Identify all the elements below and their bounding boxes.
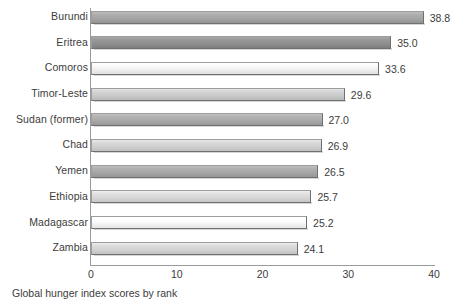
bar-container: 29.6 (91, 88, 463, 103)
bar-rows: Burundi38.8Eritrea35.0Comoros33.6Timor-L… (0, 8, 463, 265)
bar-row: Madagascar25.2 (0, 214, 463, 240)
bar-container: 26.5 (91, 165, 463, 180)
category-label: Timor-Leste (0, 87, 88, 99)
x-axis-line (90, 265, 435, 266)
bar-container: 25.2 (91, 216, 463, 231)
bar[interactable] (91, 113, 323, 126)
category-label: Chad (0, 138, 88, 150)
bar[interactable] (91, 139, 322, 152)
bar-row: Ethiopia25.7 (0, 188, 463, 214)
bar[interactable] (91, 11, 424, 24)
bar-value-label: 26.5 (324, 166, 344, 178)
x-tick-label: 40 (428, 268, 440, 280)
bar-row: Chad26.9 (0, 136, 463, 162)
bar-value-label: 29.6 (351, 89, 371, 101)
bar-container: 24.1 (91, 242, 463, 257)
bar[interactable] (91, 88, 345, 101)
category-label: Zambia (0, 241, 88, 253)
bar-container: 25.7 (91, 190, 463, 205)
x-tick-label: 20 (257, 268, 269, 280)
category-label: Eritrea (0, 36, 88, 48)
category-label: Sudan (former) (0, 113, 88, 125)
x-tick-label: 0 (88, 268, 94, 280)
bar[interactable] (91, 190, 311, 203)
bar[interactable] (91, 62, 379, 75)
bar-value-label: 25.7 (317, 191, 337, 203)
bar-container: 38.8 (91, 11, 463, 26)
x-tick-label: 30 (342, 268, 354, 280)
bar-value-label: 25.2 (313, 217, 333, 229)
category-label: Madagascar (0, 216, 88, 228)
bar-value-label: 26.9 (328, 140, 348, 152)
bar-row: Sudan (former)27.0 (0, 111, 463, 137)
category-label: Burundi (0, 10, 88, 22)
bar-container: 33.6 (91, 62, 463, 77)
bar-row: Yemen26.5 (0, 162, 463, 188)
bar-row: Eritrea35.0 (0, 34, 463, 60)
bar-value-label: 27.0 (329, 114, 349, 126)
bar-value-label: 38.8 (430, 12, 450, 24)
bar-row: Burundi38.8 (0, 8, 463, 34)
x-axis-ticks: 010203040 (0, 268, 463, 284)
bar-container: 35.0 (91, 36, 463, 51)
category-label: Comoros (0, 61, 88, 73)
bar[interactable] (91, 242, 298, 255)
category-label: Yemen (0, 164, 88, 176)
bar-value-label: 35.0 (397, 37, 417, 49)
chart-caption: Global hunger index scores by rank (12, 287, 177, 299)
bar-row: Timor-Leste29.6 (0, 85, 463, 111)
category-label: Ethiopia (0, 190, 88, 202)
bar[interactable] (91, 216, 307, 229)
plot-area: Burundi38.8Eritrea35.0Comoros33.6Timor-L… (0, 0, 463, 268)
bar-row: Comoros33.6 (0, 59, 463, 85)
bar-container: 26.9 (91, 139, 463, 154)
bar[interactable] (91, 165, 318, 178)
bar-row: Zambia24.1 (0, 239, 463, 265)
bar-value-label: 24.1 (304, 243, 324, 255)
x-tick-label: 10 (171, 268, 183, 280)
bar-container: 27.0 (91, 113, 463, 128)
bar[interactable] (91, 36, 391, 49)
bar-chart: Burundi38.8Eritrea35.0Comoros33.6Timor-L… (0, 0, 463, 305)
bar-value-label: 33.6 (385, 63, 405, 75)
